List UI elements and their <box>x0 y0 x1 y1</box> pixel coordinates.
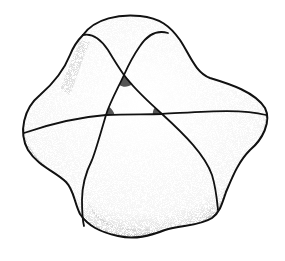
surface-diagram <box>0 0 285 261</box>
stipple-shading <box>0 0 285 261</box>
